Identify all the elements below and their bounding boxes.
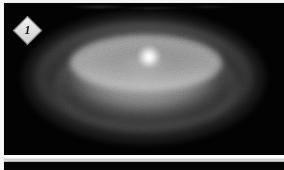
- bright-nucleus: [136, 45, 162, 69]
- figure-root: 1: [0, 0, 284, 170]
- galaxy-disk-image: [4, 3, 284, 155]
- figure-panel-2: [4, 162, 284, 170]
- panel-number-label: 1: [17, 20, 38, 41]
- figure-panel-1: 1: [4, 3, 284, 155]
